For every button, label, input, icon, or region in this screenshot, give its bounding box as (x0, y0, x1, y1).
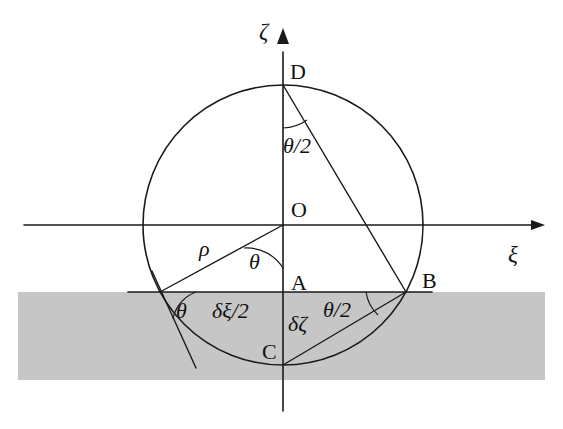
point-label-b: B (422, 270, 437, 292)
chord-db-line (283, 85, 406, 292)
angle-label-top-half-theta: θ/2 (283, 135, 311, 157)
radius-rho-line (160, 225, 283, 292)
xi-axis-label: ξ (508, 243, 518, 266)
angle-label-origin-theta: θ (249, 251, 260, 273)
zeta-axis-arrowhead (277, 28, 289, 44)
point-label-c: C (262, 341, 277, 363)
diagram-canvas (0, 0, 563, 429)
point-label-d: D (290, 61, 306, 83)
angle-label-left-theta: θ (176, 300, 187, 322)
geometry-figure: ζ ξ D O A B C ρ θ θ θ/2 θ/2 δξ/2 δζ (0, 0, 563, 429)
zeta-axis-label: ζ (259, 20, 268, 43)
radius-label-rho: ρ (199, 238, 210, 260)
point-label-o: O (291, 199, 307, 221)
point-label-a: A (291, 272, 307, 294)
angle-arc-top-half (283, 120, 307, 128)
substrate-region (18, 292, 545, 380)
half-width-label: δξ/2 (212, 300, 249, 322)
height-label: δζ (288, 313, 307, 335)
xi-axis-arrowhead (531, 220, 545, 230)
angle-label-right-half-theta: θ/2 (323, 299, 351, 321)
